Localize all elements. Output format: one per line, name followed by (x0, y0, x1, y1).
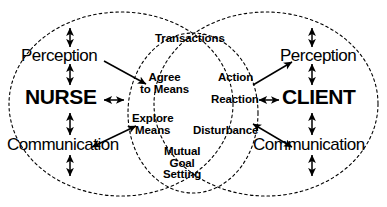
explore-means-line-1: Explore (132, 113, 173, 125)
agree-to-means-label: Agree to Means (140, 72, 189, 95)
agree-to-means-line-1: Agree (140, 72, 189, 84)
mutual-goal-setting-line-3: Setting (163, 169, 201, 181)
nurse-client-interaction-diagram: Perception NURSE Communication Perceptio… (0, 0, 387, 207)
reaction-label: Reaction (211, 94, 259, 106)
explore-means-label: Explore Means (132, 113, 173, 136)
transactions-label: Transactions (155, 33, 225, 45)
action-label: Action (218, 72, 253, 84)
nurse-actor-label: NURSE (25, 86, 97, 107)
mutual-goal-setting-line-1: Mutual (163, 146, 201, 158)
nurse-perception-label: Perception (21, 47, 97, 64)
disturbance-label: Disturbance (193, 125, 258, 137)
client-communication-label: Communication (253, 136, 365, 153)
agree-to-means-line-2: to Means (140, 84, 189, 96)
nurse-communication-label: Communication (7, 136, 119, 153)
mutual-goal-setting-label: Mutual Goal Setting (163, 146, 201, 181)
client-perception-label: Perception (280, 47, 356, 64)
client-actor-label: CLIENT (282, 86, 355, 107)
explore-means-line-2: Means (132, 125, 173, 137)
client-action-to-perception-arrow (253, 62, 292, 85)
